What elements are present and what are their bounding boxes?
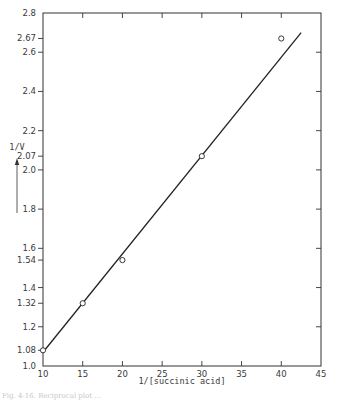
open-circle-marker	[120, 258, 125, 263]
y-tick-label: 2.2	[22, 126, 36, 136]
y-tick-label: 1.2	[22, 322, 36, 332]
plot-border	[43, 13, 321, 366]
x-tick-label: 20	[117, 369, 128, 379]
y-tick-label: 2.6	[22, 47, 36, 57]
x-tick-label: 40	[276, 369, 287, 379]
x-axis-ticks: 1015202530354045	[38, 13, 327, 379]
y-tick-label: 2.0	[22, 165, 36, 175]
open-circle-marker	[40, 348, 45, 353]
open-circle-marker	[80, 301, 85, 306]
y-tick-label: 1.54	[17, 255, 36, 265]
open-circle-marker	[199, 154, 204, 159]
x-tick-label: 15	[77, 369, 88, 379]
y-tick-label: 1.6	[22, 243, 36, 253]
y-tick-label: 2.07	[17, 151, 36, 161]
y-tick-label: 1.08	[17, 345, 36, 355]
y-axis-title: 1/V	[9, 142, 24, 152]
x-axis-title: 1/[succinic acid]	[139, 376, 226, 386]
y-tick-label: 1.0	[22, 361, 36, 371]
y-tick-label: 2.67	[17, 33, 36, 43]
data-points	[40, 36, 283, 353]
x-tick-label: 45	[316, 369, 327, 379]
x-tick-label: 35	[236, 369, 247, 379]
y-tick-label: 1.4	[22, 283, 36, 293]
figure-caption: Fig. 4-16. Reciprocal plot ...	[2, 392, 101, 400]
y-axis-ticks: 1.01.081.21.321.41.541.61.82.02.072.22.4…	[17, 8, 321, 371]
y-tick-label: 1.8	[22, 204, 36, 214]
lineweaver-burk-chart: 1015202530354045 1.01.081.21.321.41.541.…	[0, 0, 340, 403]
plot-frame	[43, 13, 321, 366]
y-tick-label: 2.4	[22, 86, 36, 96]
x-tick-label: 10	[38, 369, 49, 379]
y-tick-label: 2.8	[22, 8, 36, 18]
open-circle-marker	[279, 36, 284, 41]
y-tick-label: 1.32	[17, 298, 36, 308]
